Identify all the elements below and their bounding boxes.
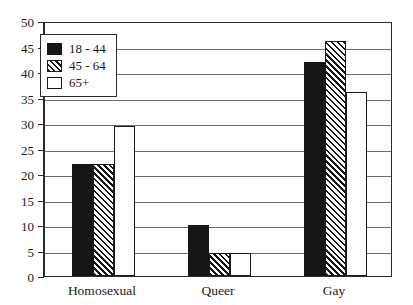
bar-chart: 05101520253035404550 HomosexualQueerGay … (0, 0, 413, 305)
y-axis-tick-label: 15 (4, 194, 34, 207)
x-axis-label-gay: Gay (323, 283, 346, 299)
bar-gay-18-44 (304, 62, 325, 276)
bar-homosexual-65+ (114, 126, 135, 276)
bar-queer-65+ (230, 253, 251, 276)
legend-swatch-solid (47, 43, 62, 55)
bar-homosexual-18-44 (72, 164, 93, 276)
y-axis-tick-label: 10 (4, 220, 34, 233)
y-axis-tick-label: 40 (4, 67, 34, 80)
bar-queer-18-44 (188, 225, 209, 276)
bar-homosexual-45-64 (93, 164, 114, 276)
y-axis-tick-label: 20 (4, 169, 34, 182)
legend-label: 18 - 44 (69, 42, 106, 55)
y-axis-tick-label: 0 (4, 271, 34, 284)
y-axis-tick-label: 25 (4, 143, 34, 156)
legend-swatch-open (47, 77, 62, 89)
y-axis-tick-label: 50 (4, 16, 34, 29)
bar-queer-45-64 (209, 253, 230, 276)
y-axis-tick-label: 45 (4, 41, 34, 54)
legend-label: 65+ (69, 76, 89, 89)
legend-label: 45 - 64 (69, 59, 106, 72)
legend-item: 65+ (47, 74, 106, 91)
y-axis-tick-label: 35 (4, 92, 34, 105)
y-axis-tick-label: 5 (4, 245, 34, 258)
legend: 18 - 4445 - 6465+ (40, 34, 117, 97)
legend-item: 45 - 64 (47, 57, 106, 74)
x-axis-label-queer: Queer (202, 283, 235, 299)
legend-swatch-hatch (47, 60, 62, 72)
bar-gay-45-64 (325, 41, 346, 276)
legend-item: 18 - 44 (47, 40, 106, 57)
y-axis-tick-label: 30 (4, 118, 34, 131)
y-axis-tick-mark (38, 277, 44, 278)
x-axis-label-homosexual: Homosexual (68, 283, 136, 299)
bar-gay-65+ (346, 92, 367, 276)
